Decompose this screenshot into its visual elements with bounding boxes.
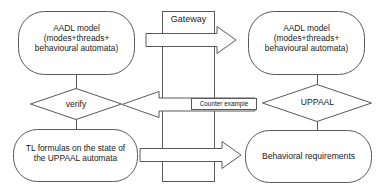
diagram-vector-layer (0, 0, 382, 192)
uppaal-diamond-shape[interactable] (263, 85, 372, 122)
tl-formulas-shape[interactable] (14, 130, 138, 182)
diagram-canvas: AADL model (modes+threads+ behavioural a… (0, 0, 382, 192)
behavioral-requirements-shape[interactable] (246, 131, 372, 183)
aadl-model-right-shape[interactable] (249, 12, 365, 75)
verify-diamond-shape[interactable] (31, 89, 122, 120)
aadl-model-left-shape[interactable] (19, 12, 135, 75)
counter-example-label-box[interactable] (192, 99, 257, 110)
